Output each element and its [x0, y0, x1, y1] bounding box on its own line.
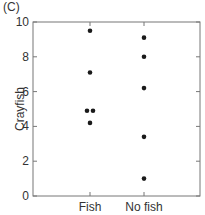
data-point: [142, 135, 147, 140]
data-point: [142, 35, 147, 40]
data-point: [142, 86, 147, 91]
plot-frame: [33, 22, 200, 196]
data-point: [91, 108, 96, 113]
y-tick-label: 8: [22, 50, 29, 64]
data-point: [142, 176, 147, 181]
scatter-chart: 0246810 FishNo fish: [0, 0, 205, 215]
data-point: [88, 70, 93, 75]
data-point: [142, 55, 147, 60]
data-points: [85, 28, 147, 181]
y-tick-label: 4: [22, 119, 29, 133]
data-point: [88, 121, 93, 126]
x-tick-label: Fish: [79, 200, 102, 214]
axes-box: [33, 22, 200, 196]
y-tick-label: 0: [22, 189, 29, 203]
y-tick-label: 6: [22, 85, 29, 99]
x-axis: FishNo fish: [79, 22, 163, 214]
y-tick-label: 10: [16, 15, 30, 29]
x-tick-label: No fish: [125, 200, 162, 214]
data-point: [88, 28, 93, 33]
y-axis: 0246810: [16, 15, 200, 203]
y-tick-label: 2: [22, 154, 29, 168]
data-point: [85, 108, 90, 113]
